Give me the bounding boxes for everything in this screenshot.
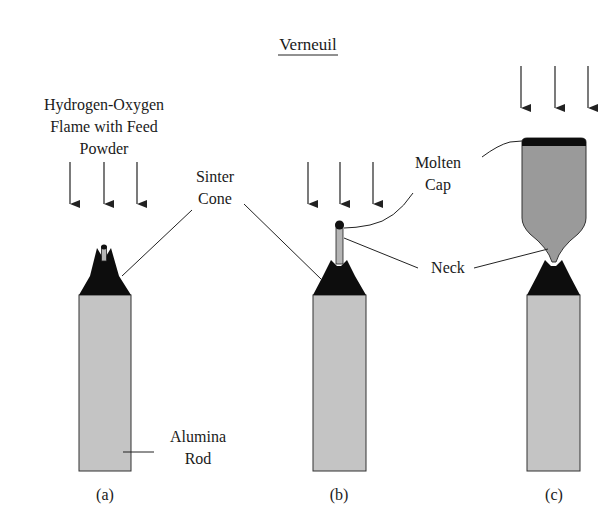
caption-b: (b): [330, 486, 349, 504]
neck-leader-c: [474, 249, 548, 268]
alumina-rod: [79, 295, 131, 471]
flame-arrows-a: [70, 162, 137, 204]
diagram-title: Verneuil: [279, 35, 337, 54]
panel-b: [313, 221, 366, 472]
molten-cap: [335, 221, 344, 230]
flame-arrows-c: [521, 66, 588, 108]
sinter-leader-a: [122, 210, 192, 276]
molten-cap-label-line1: Molten: [415, 154, 461, 171]
sinter-cone-label-line1: Sinter: [196, 168, 235, 185]
alumina-rod-label-line1: Alumina: [170, 428, 226, 445]
caption-a: (a): [96, 486, 114, 504]
molten-cap: [522, 138, 586, 146]
sinter-cone: [527, 260, 580, 295]
caption-c: (c): [545, 486, 563, 504]
molten-cap-label-line2: Cap: [425, 176, 451, 194]
sinter-cone: [313, 260, 366, 295]
crystal-neck: [336, 224, 343, 264]
neck-label: Neck: [431, 259, 465, 276]
flame-label-line2: Flame with Feed: [50, 118, 158, 135]
flame-label-line3: Powder: [80, 140, 130, 157]
molten-leader-b: [344, 193, 413, 228]
flame-label-line1: Hydrogen-Oxygen: [44, 96, 164, 114]
grown-crystal: [522, 138, 586, 262]
molten-leader-c: [482, 141, 522, 157]
sinter-cone-label-line2: Cone: [198, 190, 232, 207]
alumina-rod: [527, 295, 580, 471]
panel-a: [79, 245, 131, 472]
sinter-leader-b: [244, 204, 322, 280]
verneuil-diagram: Verneuil Hydrogen-Oxygen Flame with Feed…: [0, 0, 615, 530]
alumina-rod: [313, 295, 366, 471]
alumina-rod-label-line2: Rod: [185, 450, 212, 467]
neck-leader-b: [344, 238, 418, 268]
flame-arrows-b: [308, 162, 373, 204]
panel-c: [522, 138, 586, 471]
diagram-svg: Verneuil Hydrogen-Oxygen Flame with Feed…: [0, 0, 615, 530]
molten-tip: [101, 245, 107, 250]
